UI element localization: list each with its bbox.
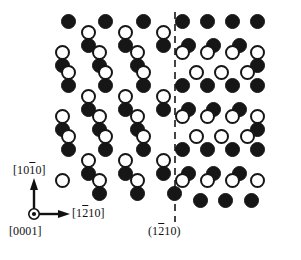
plane-label-suffix: 10) — [164, 224, 180, 238]
plane-label: (1210) — [148, 224, 181, 239]
direction-label-horizontal-suffix: 10] — [88, 206, 104, 220]
direction-label-horizontal: [1210] — [72, 206, 105, 221]
direction-label-vertical: [1010] — [13, 163, 46, 178]
plane-label-prefix: (1 — [148, 224, 158, 238]
direction-label-horizontal-prefix: [1 — [72, 206, 82, 220]
direction-label-vertical-prefix: [10 — [13, 163, 29, 177]
direction-label-vertical-suffix: 0] — [35, 163, 45, 177]
direction-label-normal: [0001] — [9, 224, 42, 239]
vertical-axis-arrowhead — [30, 178, 38, 190]
out-of-page-axis-dot — [32, 212, 36, 216]
crystal-structure-figure: [1010] [1210] [0001] (1210) — [0, 0, 301, 260]
axes-and-annotations-layer — [0, 0, 301, 260]
horizontal-axis-arrowhead — [58, 210, 70, 218]
